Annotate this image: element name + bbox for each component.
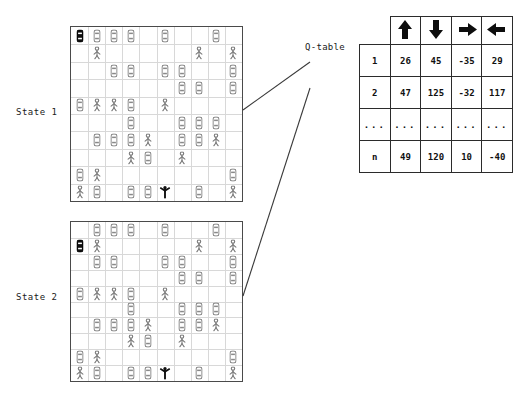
car-icon	[110, 29, 117, 42]
grid-line-vertical	[191, 27, 192, 201]
car-icon	[76, 287, 83, 300]
car-icon	[93, 319, 100, 332]
grid-line-vertical	[225, 222, 226, 381]
qtable-cell[interactable]: 49	[390, 141, 421, 173]
grid-line-vertical	[208, 27, 209, 201]
ego-car-icon[interactable]	[76, 29, 83, 42]
arrow-up-icon	[394, 18, 416, 41]
qtable-row: 12645-3529	[360, 45, 513, 77]
car-icon	[110, 223, 117, 236]
grid-line-horizontal	[71, 131, 242, 132]
grid-line-vertical	[174, 27, 175, 201]
car-icon	[110, 64, 117, 77]
car-icon	[93, 255, 100, 268]
person-icon	[93, 47, 101, 60]
person-icon	[93, 239, 101, 252]
grid-line-horizontal	[71, 270, 242, 271]
goal-person-icon[interactable]	[160, 367, 171, 380]
qtable-container: Q-table 12645-3529247125-32117..........…	[305, 16, 513, 212]
qtable-cell[interactable]: 26	[390, 45, 421, 77]
car-icon	[196, 81, 203, 94]
person-icon	[127, 151, 135, 164]
car-icon	[196, 134, 203, 147]
grid-line-horizontal	[71, 79, 242, 80]
qtable-row: 247125-32117	[360, 77, 513, 109]
qtable-cell[interactable]: ...	[451, 109, 482, 141]
person-icon	[195, 47, 203, 60]
qtable-cell[interactable]: 47	[390, 77, 421, 109]
car-icon	[127, 319, 134, 332]
grid-line-vertical	[122, 222, 123, 381]
arrow-down-icon	[425, 18, 447, 41]
car-icon	[93, 134, 100, 147]
car-icon	[144, 151, 151, 164]
person-icon	[229, 239, 237, 252]
grid-line-vertical	[122, 27, 123, 201]
car-icon	[196, 186, 203, 199]
car-icon	[144, 186, 151, 199]
qtable-cell[interactable]: ...	[390, 109, 421, 141]
goal-person-icon[interactable]	[160, 186, 171, 199]
state-2-grid[interactable]	[70, 221, 243, 382]
qtable-cell[interactable]: 45	[421, 45, 452, 77]
qtable-cell[interactable]: -32	[451, 77, 482, 109]
car-icon	[213, 116, 220, 129]
car-icon	[76, 99, 83, 112]
car-icon	[110, 255, 117, 268]
qtable-header-left[interactable]	[482, 17, 513, 45]
qtable-state-label: n	[360, 141, 391, 173]
qtable-header-up[interactable]	[390, 17, 421, 45]
car-icon	[127, 64, 134, 77]
qtable-state-label: 2	[360, 77, 391, 109]
qtable-cell[interactable]: 29	[482, 45, 513, 77]
qtable-cell[interactable]: 120	[421, 141, 452, 173]
person-icon	[144, 134, 152, 147]
qtable-header-down[interactable]	[421, 17, 452, 45]
car-icon	[144, 367, 151, 380]
person-icon	[110, 287, 118, 300]
car-icon	[179, 81, 186, 94]
person-icon	[161, 287, 169, 300]
car-icon	[230, 351, 237, 364]
qtable[interactable]: 12645-3529247125-32117...............n49…	[359, 16, 513, 173]
grid-line-horizontal	[71, 333, 242, 334]
car-icon	[196, 319, 203, 332]
car-icon	[230, 64, 237, 77]
connector-state2-to-qtable	[243, 88, 310, 296]
grid-line-vertical	[139, 27, 140, 201]
state-1-grid[interactable]	[70, 26, 243, 202]
qtable-cell[interactable]: -35	[451, 45, 482, 77]
car-icon	[196, 303, 203, 316]
grid-line-vertical	[105, 27, 106, 201]
car-icon	[179, 255, 186, 268]
car-icon	[162, 29, 169, 42]
grid-line-vertical	[105, 222, 106, 381]
person-icon	[93, 351, 101, 364]
qtable-cell[interactable]: 125	[421, 77, 452, 109]
car-icon	[76, 168, 83, 181]
qtable-cell[interactable]: 117	[482, 77, 513, 109]
person-icon	[127, 335, 135, 348]
car-icon	[93, 186, 100, 199]
qtable-cell[interactable]: ...	[421, 109, 452, 141]
qtable-cell[interactable]: 10	[451, 141, 482, 173]
grid-line-vertical	[225, 27, 226, 201]
person-icon	[93, 168, 101, 181]
car-icon	[127, 303, 134, 316]
grid-line-vertical	[88, 222, 89, 381]
grid-line-horizontal	[71, 114, 242, 115]
person-icon	[178, 151, 186, 164]
car-icon	[179, 116, 186, 129]
car-icon	[179, 319, 186, 332]
qtable-cell[interactable]: -40	[482, 141, 513, 173]
qtable-header-right[interactable]	[451, 17, 482, 45]
person-icon	[229, 367, 237, 380]
car-icon	[127, 29, 134, 42]
person-icon	[76, 186, 84, 199]
person-icon	[212, 134, 220, 147]
person-icon	[144, 319, 152, 332]
car-icon	[196, 271, 203, 284]
person-icon	[195, 239, 203, 252]
ego-car-icon[interactable]	[76, 239, 83, 252]
qtable-cell[interactable]: ...	[482, 109, 513, 141]
